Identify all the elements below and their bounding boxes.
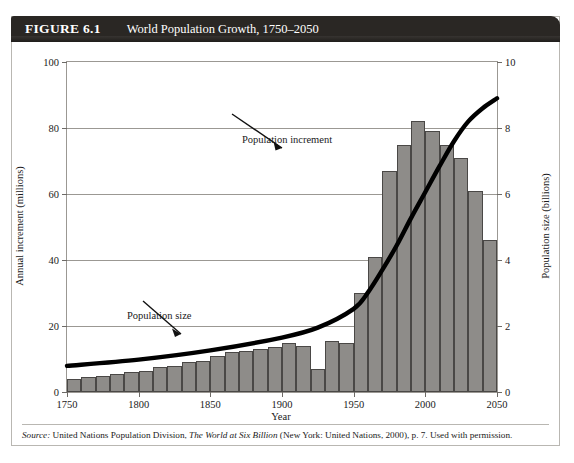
bar [397, 145, 411, 393]
x-tick [67, 392, 68, 397]
x-tick [354, 392, 355, 397]
x-tick [425, 392, 426, 397]
y-tick-label-right: 8 [505, 123, 510, 134]
bar [425, 131, 439, 392]
y-tick-left [62, 260, 67, 261]
source-note: Source: United Nations Population Divisi… [22, 429, 552, 442]
y-tick-label-right: 6 [505, 189, 510, 200]
figure-number: FIGURE 6.1 [25, 21, 101, 37]
y-tick-right [497, 128, 502, 129]
bar [382, 171, 396, 392]
bar [139, 371, 153, 392]
y-tick-label-right: 10 [505, 57, 516, 68]
source-prefix: Source: [22, 430, 50, 440]
bar [354, 293, 368, 392]
source-publication-title: The World at Six Billion [189, 430, 277, 440]
y-tick-label-left: 20 [49, 321, 60, 332]
y-tick-left [62, 326, 67, 327]
y-axis-left-title: Annual increment (millions) [14, 166, 25, 286]
bar [210, 356, 224, 392]
annotation-population-size: Population size [127, 310, 191, 321]
x-tick [497, 392, 498, 397]
y-tick-label-left: 0 [54, 387, 59, 398]
y-tick-label-right: 2 [505, 321, 510, 332]
y-tick-left [62, 128, 67, 129]
bar [81, 377, 95, 392]
x-axis-title: Year [271, 411, 290, 422]
y-tick-right [497, 260, 502, 261]
y-tick-label-right: 0 [505, 387, 510, 398]
x-tick-label: 1950 [343, 399, 364, 410]
bar [440, 145, 454, 393]
plot-area: 020406080100 0246810 1750180018501900195… [66, 61, 498, 393]
increment-arrow [232, 114, 282, 151]
chart-container: Annual increment (millions) Population s… [11, 42, 560, 423]
bar [368, 257, 382, 392]
bar [483, 240, 497, 392]
y-tick-right [497, 194, 502, 195]
bar [468, 191, 482, 392]
x-tick-label: 1800 [128, 399, 149, 410]
figure-title: World Population Growth, 1750–2050 [127, 22, 319, 37]
y-tick-label-left: 100 [43, 57, 59, 68]
bar [454, 158, 468, 392]
gridline [67, 128, 497, 129]
bar [268, 347, 282, 392]
bar [339, 343, 353, 393]
bar [325, 341, 339, 392]
bar [96, 376, 110, 393]
x-tick-label: 1900 [272, 399, 293, 410]
y-tick-left [62, 62, 67, 63]
x-tick [210, 392, 211, 397]
bar [411, 121, 425, 392]
y-tick-label-left: 80 [49, 123, 60, 134]
y-tick-right [497, 326, 502, 327]
y-tick-label-left: 60 [49, 189, 60, 200]
y-tick-label-left: 40 [49, 255, 60, 266]
bar [196, 361, 210, 392]
x-tick-label: 1750 [57, 399, 78, 410]
figure-page: FIGURE 6.1 World Population Growth, 1750… [0, 0, 574, 463]
x-tick-label: 2050 [487, 399, 508, 410]
bar [296, 346, 310, 392]
figure-header: FIGURE 6.1 World Population Growth, 1750… [11, 16, 560, 42]
bar [182, 362, 196, 392]
annotation-population-increment: Population increment [242, 134, 332, 145]
source-divider [22, 424, 549, 425]
x-tick-label: 2000 [415, 399, 436, 410]
bar [110, 374, 124, 392]
bar [124, 372, 138, 392]
bar [153, 367, 167, 392]
y-tick-label-right: 4 [505, 255, 510, 266]
y-tick-left [62, 194, 67, 195]
bar [67, 379, 81, 392]
x-tick [139, 392, 140, 397]
bar [311, 369, 325, 392]
bar [282, 343, 296, 393]
source-part2: (New York: United Nations, 2000), p. 7. … [278, 430, 513, 440]
bar [239, 351, 253, 392]
bar [225, 352, 239, 392]
bar [253, 349, 267, 392]
y-axis-right-title: Population size (billions) [540, 173, 551, 279]
x-tick [282, 392, 283, 397]
source-part1: United Nations Population Division, [50, 430, 189, 440]
bar [167, 366, 181, 392]
y-tick-right [497, 62, 502, 63]
x-tick-label: 1850 [200, 399, 221, 410]
